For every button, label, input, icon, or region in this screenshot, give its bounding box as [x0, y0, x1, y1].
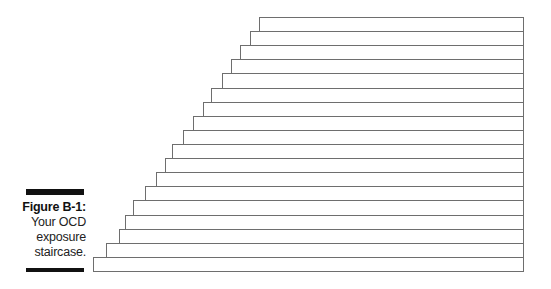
staircase-step-10	[183, 130, 524, 145]
staircase-step-5	[133, 200, 524, 216]
staircase-step-8	[165, 158, 524, 173]
exposure-staircase	[0, 0, 551, 289]
staircase-step-15	[231, 59, 524, 74]
staircase-step-4	[125, 215, 524, 230]
staircase-step-12	[203, 102, 524, 117]
staircase-step-7	[156, 172, 524, 187]
staircase-step-17	[250, 31, 524, 46]
staircase-step-9	[172, 144, 524, 159]
staircase-step-2	[106, 243, 524, 258]
staircase-step-18	[259, 17, 524, 32]
staircase-step-14	[222, 73, 524, 89]
staircase-step-13	[211, 88, 524, 103]
staircase-step-11	[193, 116, 524, 131]
staircase-step-6	[145, 186, 524, 201]
staircase-step-1	[93, 257, 524, 272]
staircase-step-3	[119, 229, 524, 244]
staircase-step-16	[240, 45, 524, 60]
